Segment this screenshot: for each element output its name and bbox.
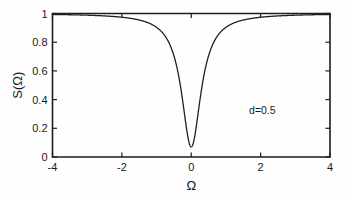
y-tick-label: 0 xyxy=(41,151,47,163)
y-tick-label: 0.4 xyxy=(32,94,47,106)
x-axis-ticks xyxy=(53,14,331,158)
annotation-label: d=0.5 xyxy=(249,104,276,116)
chart-canvas: -4-2024 00.20.40.60.81 Ω S(Ω) d=0.5 xyxy=(0,0,351,197)
x-tick-label: 0 xyxy=(188,161,194,173)
x-axis-tick-labels: -4-2024 xyxy=(48,161,333,173)
chart-annotations: d=0.5 xyxy=(249,104,276,116)
x-tick-label: -2 xyxy=(117,161,127,173)
plot-frame xyxy=(53,14,331,158)
y-tick-label: 0.6 xyxy=(32,65,47,77)
y-axis-tick-labels: 00.20.40.60.81 xyxy=(32,8,47,164)
figure-panel: -4-2024 00.20.40.60.81 Ω S(Ω) d=0.5 xyxy=(0,0,351,197)
x-tick-label: -4 xyxy=(48,161,58,173)
y-axis-title: S(Ω) xyxy=(10,72,25,99)
data-series-line xyxy=(53,14,331,146)
x-tick-label: 2 xyxy=(258,161,264,173)
y-axis-ticks xyxy=(53,14,331,158)
y-tick-label: 0.8 xyxy=(32,36,47,48)
x-tick-label: 4 xyxy=(327,161,333,173)
x-axis-title: Ω xyxy=(186,178,196,193)
y-tick-label: 1 xyxy=(41,8,47,20)
y-tick-label: 0.2 xyxy=(32,122,47,134)
